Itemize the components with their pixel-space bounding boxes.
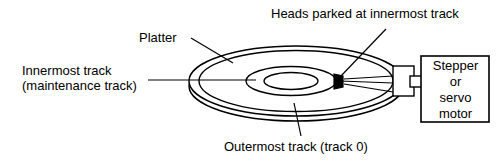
label-innermost-track: Innermost track (maintenance track) [22, 63, 137, 93]
label-platter: Platter [139, 30, 177, 45]
label-innermost-track-line2: (maintenance track) [22, 78, 137, 93]
motor-label-line2: or [450, 74, 462, 90]
label-outermost-track: Outermost track (track 0) [224, 139, 368, 154]
motor-label-line3: servo [440, 90, 472, 106]
disk-platter-diagram: Platter Heads parked at innermost track … [0, 0, 496, 163]
motor-box-label: Stepper or servo motor [422, 57, 489, 122]
motor-label-line4: motor [439, 106, 472, 122]
label-innermost-track-line1: Innermost track [22, 63, 112, 78]
read-write-head [334, 74, 343, 89]
label-heads-parked: Heads parked at innermost track [271, 6, 459, 21]
motor-label-line1: Stepper [433, 58, 479, 74]
